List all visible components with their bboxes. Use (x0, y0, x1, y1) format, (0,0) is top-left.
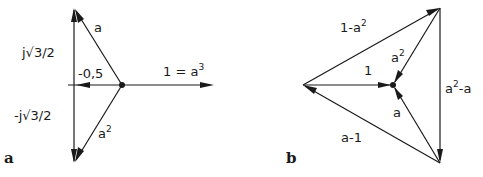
label-neg-half: -0,5 (78, 66, 103, 81)
phasor-a2-line (76, 85, 122, 160)
arrow-head-left-icon (76, 82, 90, 88)
origin-dot (119, 82, 125, 88)
arrow-head-right-icon (200, 82, 214, 88)
phasor-1-arrow-icon (378, 82, 391, 88)
arrow-head-up-icon (71, 8, 77, 22)
label-neg-j-sqrt3-over-2: -j√3/2 (14, 108, 52, 123)
panel-b: 1-a2 a2 1 a2-a a a-1 b (286, 8, 471, 167)
label-a-minus-1: a-1 (341, 130, 362, 145)
panel-label-b: b (286, 149, 297, 167)
label-one-eq-a3: 1 = a3 (163, 62, 204, 79)
phasor-a2-minus-a-arrow-icon (437, 149, 443, 163)
label-a: a (94, 20, 102, 35)
phasor-a-minus-1-arrow-icon (303, 85, 317, 94)
center-dot (390, 82, 396, 88)
arrow-head-down-icon (71, 149, 77, 163)
label-a2: a2 (98, 124, 112, 141)
label-j-sqrt3-over-2: j√3/2 (21, 45, 55, 60)
phasor-diagram-canvas: a a2 1 = a3 -0,5 j√3/2 -j√3/2 a 1-a2 a2 (0, 0, 483, 177)
phasor-a-minus-1-line (305, 86, 440, 163)
label-a2-minus-a: a2-a (445, 79, 471, 96)
phasor-a-line (395, 88, 440, 163)
panel-label-a: a (4, 149, 14, 167)
label-a2: a2 (391, 48, 405, 65)
label-1-minus-a2: 1-a2 (340, 18, 367, 35)
label-a: a (393, 105, 401, 120)
label-1: 1 (364, 63, 372, 78)
panel-a: a a2 1 = a3 -0,5 j√3/2 -j√3/2 a (4, 8, 214, 167)
phasor-a2-line (395, 8, 440, 82)
